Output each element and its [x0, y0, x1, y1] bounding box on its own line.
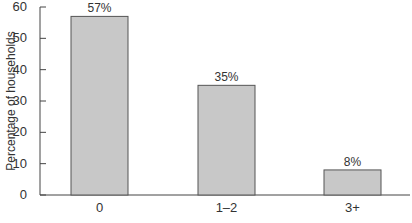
y-axis-title: Percentage of households — [4, 31, 18, 170]
bars: 57%035%1–28%3+ — [71, 1, 381, 215]
bar-1 — [198, 85, 255, 195]
x-category-label: 0 — [96, 200, 103, 215]
y-tick-label: 0 — [20, 187, 27, 202]
bar-value-label: 35% — [214, 70, 238, 84]
bar-value-label: 57% — [87, 1, 111, 15]
y-tick-label: 60 — [13, 0, 27, 14]
bar-value-label: 8% — [344, 155, 362, 169]
x-category-label: 1–2 — [216, 200, 238, 215]
bar-chart: 0102030405060 57%035%1–28%3+ Percentage … — [0, 0, 412, 223]
bar-2 — [324, 170, 381, 195]
bar-0 — [71, 16, 128, 195]
x-category-label: 3+ — [345, 200, 360, 215]
